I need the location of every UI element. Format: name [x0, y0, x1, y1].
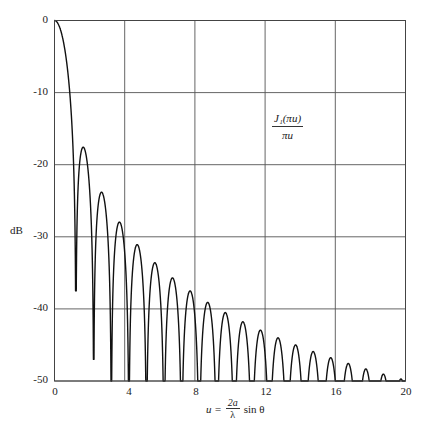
y-tick-label: -50: [8, 373, 48, 385]
x-axis-label: u = 2a λ sin θ: [206, 397, 265, 420]
annotation-numerator: J₁(πu): [272, 112, 303, 127]
y-tick-label: -10: [8, 85, 48, 97]
grid-lines: [55, 21, 406, 382]
pattern-curve: [55, 21, 406, 382]
x-label-frac-den: λ: [230, 409, 235, 420]
y-axis-label: dB: [10, 224, 23, 236]
x-tick-label: 0: [40, 385, 70, 397]
x-label-fraction: 2a λ: [226, 397, 240, 420]
x-tick-label: 12: [251, 385, 281, 397]
x-tick-label: 4: [114, 385, 144, 397]
y-tick-label: -40: [8, 301, 48, 313]
y-tick-label: 0: [8, 13, 48, 25]
y-tick-label: -20: [8, 157, 48, 169]
x-label-tail: sin θ: [244, 403, 265, 415]
x-tick-label: 16: [321, 385, 351, 397]
annotation-denominator: πu: [272, 127, 303, 141]
x-label-frac-num: 2a: [226, 397, 240, 409]
x-tick-label: 8: [181, 385, 211, 397]
function-annotation: J₁(πu) πu: [272, 112, 303, 141]
chart-plot-area: [0, 0, 425, 437]
x-label-u: u =: [206, 403, 222, 415]
plot-frame: [55, 21, 406, 382]
x-tick-label: 20: [391, 385, 421, 397]
